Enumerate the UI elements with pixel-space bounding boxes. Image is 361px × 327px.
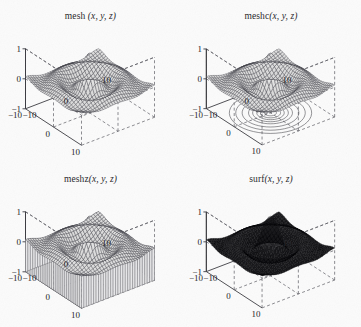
y-tick-label: 0	[226, 128, 231, 138]
x-tick-label: 0	[64, 259, 69, 269]
z-tick-label: 1	[197, 207, 201, 217]
y-tick-label: 10	[252, 309, 261, 319]
z-tick-label: 0	[17, 237, 22, 247]
x-tick-label: −10	[203, 110, 218, 120]
y-tick-label: 0	[46, 292, 51, 302]
x-tick-label: 10	[282, 75, 291, 85]
figure-grid: mesh (x, y, z) 10−1100−10−10010 meshc(x,…	[0, 0, 361, 327]
y-tick-label: 10	[71, 310, 81, 320]
plot-svg-mesh: 10−1100−10−10010	[0, 0, 181, 163]
x-tick-label: −10	[22, 110, 37, 120]
y-tick-label: −10	[8, 110, 23, 120]
y-tick-label: 10	[71, 147, 81, 157]
y-tick-label: 0	[46, 129, 51, 139]
plot-panel-mesh: mesh (x, y, z) 10−1100−10−10010	[0, 0, 181, 163]
x-tick-label: 0	[244, 96, 249, 106]
plot-panel-meshc: meshc(x, y, z) 10−1100−10−10010	[181, 0, 361, 163]
x-tick-label: −10	[203, 273, 218, 283]
z-tick-label: 1	[197, 44, 201, 54]
y-tick-label: −10	[189, 110, 204, 120]
z-tick-label: 0	[197, 74, 202, 84]
x-tick-label: 0	[64, 96, 69, 106]
z-tick-label: 0	[197, 237, 202, 247]
y-tick-label: −10	[189, 273, 204, 283]
x-tick-label: −10	[22, 273, 37, 283]
plot-svg-meshz: 10−1100−10−10010	[0, 163, 181, 326]
x-tick-label: 10	[102, 238, 112, 248]
x-tick-label: 0	[244, 259, 249, 269]
y-tick-label: 0	[226, 291, 231, 301]
x-tick-label: 10	[102, 75, 112, 85]
plot-svg-meshc: 10−1100−10−10010	[181, 0, 361, 163]
z-tick-label: 1	[17, 207, 22, 217]
y-tick-label: −10	[8, 273, 23, 283]
plot-svg-surf: 10−1100−10−10010	[181, 163, 361, 326]
z-tick-label: 0	[17, 74, 22, 84]
z-tick-label: 1	[17, 44, 22, 54]
y-tick-label: 10	[252, 146, 261, 156]
x-tick-label: 10	[282, 238, 291, 248]
plot-panel-surf: surf(x, y, z) 10−1100−10−10010	[181, 163, 361, 327]
plot-panel-meshz: meshz(x, y, z) 10−1100−10−10010	[0, 163, 181, 327]
